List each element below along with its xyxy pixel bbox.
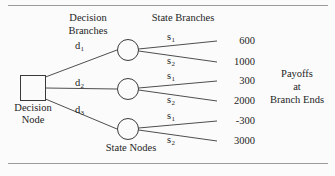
decision-branch-label-d1: d1 — [75, 40, 84, 52]
payoffs-note-line2: at — [262, 81, 332, 93]
state-branch-n3-s2-line — [139, 130, 218, 141]
payoff-value-3: 300 — [221, 75, 255, 87]
state-node-1-circle — [118, 40, 139, 61]
state-branch-label-n2-s2: s2 — [167, 94, 175, 106]
payoff-value-6: 3000 — [221, 135, 255, 147]
state-branch-label-n3-s1: s1 — [167, 110, 175, 122]
state-branch-n2-s1-sub: 1 — [171, 75, 175, 83]
decision-branch-label-d2: d2 — [75, 77, 84, 89]
decision-branch-d1-sub: 1 — [81, 45, 85, 53]
state-branch-n3-s1-line — [139, 121, 218, 128]
decision-branch-label-d3: d3 — [75, 104, 84, 116]
state-branch-n3-s1-sub: 1 — [171, 115, 175, 123]
state-branch-label-n1-s2: s2 — [167, 55, 175, 67]
payoffs-note-line3: Branch Ends — [259, 94, 335, 106]
payoff-value-4: 2000 — [221, 95, 255, 107]
state-branch-n2-s2-sub: 2 — [171, 99, 175, 107]
state-branch-n1-s2-line — [139, 51, 218, 62]
decision-tree-figure: Decision Branches State Branches Decisio… — [0, 0, 335, 176]
state-branch-n2-s2-line — [139, 90, 218, 101]
state-branch-label-n2-s1: s1 — [167, 70, 175, 82]
state-branch-label-n3-s2: s2 — [167, 134, 175, 146]
decision-branches-header-line2: Branches — [56, 25, 120, 37]
state-branch-n3-s2-sub: 2 — [171, 139, 175, 147]
decision-node-caption-line1: Decision — [7, 102, 59, 114]
state-branch-label-n1-s1: s1 — [167, 31, 175, 43]
state-branch-n2-s1-line — [139, 81, 218, 88]
decision-node-square — [21, 76, 46, 101]
decision-branch-d2-sub: 2 — [81, 82, 85, 90]
state-branch-n1-s1-sub: 1 — [171, 36, 175, 44]
state-nodes-caption: State Nodes — [97, 142, 165, 154]
decision-branch-d3-sub: 3 — [81, 109, 85, 117]
state-node-3-circle — [118, 119, 139, 140]
payoffs-note-line1: Payoffs — [262, 68, 332, 80]
decision-branch-d3-letter: d — [75, 104, 80, 115]
payoff-value-5: -300 — [221, 115, 255, 127]
state-branches-header: State Branches — [136, 12, 230, 24]
decision-branch-d1-line — [46, 50, 118, 77]
payoff-value-1: 600 — [221, 35, 255, 47]
decision-branch-d1-letter: d — [75, 40, 80, 51]
decision-branch-d2-letter: d — [75, 77, 80, 88]
decision-node-caption-line2: Node — [7, 114, 59, 126]
state-branch-n1-s2-sub: 2 — [171, 60, 175, 68]
state-branch-n1-s1-line — [139, 41, 218, 49]
decision-branches-header-line1: Decision — [56, 12, 120, 24]
state-node-2-circle — [118, 79, 139, 100]
payoff-value-2: 1000 — [221, 56, 255, 68]
